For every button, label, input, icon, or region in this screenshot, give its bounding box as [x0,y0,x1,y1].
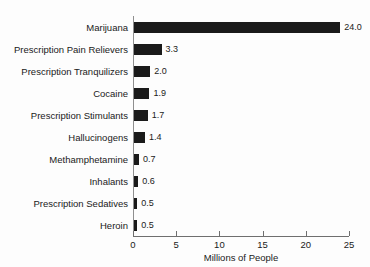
bar [133,44,162,55]
bar-value-label: 1.9 [153,88,166,99]
bar-row: Prescription Sedatives0.5 [0,192,370,214]
bar-and-value: 1.7 [133,104,164,126]
bar-value-label: 0.5 [141,198,154,209]
category-label: Marijuana [0,22,128,33]
bar-row: Prescription Stimulants1.7 [0,104,370,126]
bar [133,66,150,77]
category-label: Prescription Stimulants [0,110,128,121]
bar-and-value: 0.6 [133,170,155,192]
bar-row: Hallucinogens1.4 [0,126,370,148]
bar [133,110,148,121]
x-axis-tick [306,231,307,236]
bar-row: Marijuana24.0 [0,16,370,38]
bar [133,132,145,143]
bar-row: Inhalants0.6 [0,170,370,192]
y-axis-line [133,16,134,236]
x-axis-tick [263,231,264,236]
bar-and-value: 2.0 [133,60,167,82]
x-axis-tick-label: 25 [344,239,355,250]
x-axis-tick [176,231,177,236]
category-label: Cocaine [0,88,128,99]
bar-row: Heroin0.5 [0,214,370,236]
x-axis-tick-label: 10 [214,239,225,250]
plot-area: Marijuana24.0Prescription Pain Relievers… [0,0,370,267]
bar-and-value: 0.5 [133,214,154,236]
bar-value-label: 3.3 [166,44,179,55]
x-axis-tick [349,231,350,236]
bar-and-value: 24.0 [133,16,362,38]
bar-row: Prescription Pain Relievers3.3 [0,38,370,60]
bar-and-value: 3.3 [133,38,178,60]
x-axis-line [133,236,349,237]
category-label: Prescription Sedatives [0,198,128,209]
bar-value-label: 0.7 [143,154,156,165]
x-axis-tick-label: 0 [130,239,135,250]
x-axis-tick-label: 20 [301,239,312,250]
bar-value-label: 24.0 [344,22,362,33]
bar-value-label: 1.7 [152,110,165,121]
bar-value-label: 2.0 [154,66,167,77]
category-label: Hallucinogens [0,132,128,143]
category-label: Heroin [0,220,128,231]
bar-rows: Marijuana24.0Prescription Pain Relievers… [0,16,370,236]
bar-value-label: 0.6 [142,176,155,187]
bar-value-label: 0.5 [141,220,154,231]
bar-and-value: 0.7 [133,148,156,170]
bar-row: Methamphetamine0.7 [0,148,370,170]
bar-and-value: 0.5 [133,192,154,214]
category-label: Prescription Tranquilizers [0,66,128,77]
bar-row: Cocaine1.9 [0,82,370,104]
x-axis-tick [219,231,220,236]
bar-chart: Marijuana24.0Prescription Pain Relievers… [0,0,370,267]
bar [133,22,340,33]
x-axis-tick-label: 15 [257,239,268,250]
x-axis-tick-label: 5 [174,239,179,250]
category-label: Methamphetamine [0,154,128,165]
category-label: Inhalants [0,176,128,187]
x-axis-title: Millions of People [133,252,349,263]
bar-value-label: 1.4 [149,132,162,143]
category-label: Prescription Pain Relievers [0,44,128,55]
x-axis-tick [133,231,134,236]
bar-and-value: 1.9 [133,82,166,104]
bar [133,88,149,99]
bar-row: Prescription Tranquilizers2.0 [0,60,370,82]
bar-and-value: 1.4 [133,126,162,148]
